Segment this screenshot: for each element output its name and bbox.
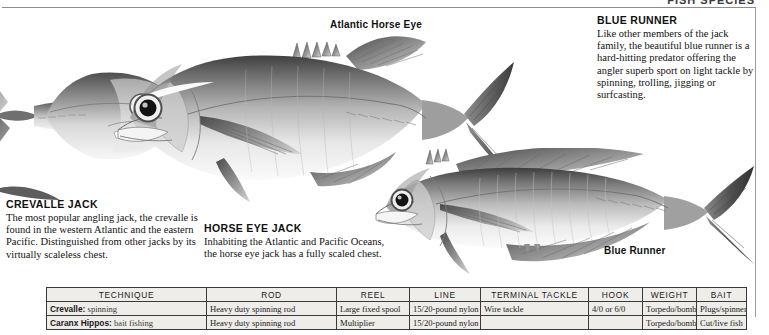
cell-line: 15/20-pound nylon bbox=[410, 302, 481, 316]
blue-runner-text-block: BLUE RUNNER Like other members of the ja… bbox=[597, 14, 757, 101]
col-reel: REEL bbox=[337, 288, 410, 302]
cell-hook bbox=[589, 316, 643, 330]
horse-eye-jack-text-block: HORSE EYE JACK Inhabiting the Atlantic a… bbox=[204, 222, 394, 260]
horse-eye-jack-body: Inhabiting the Atlantic and Pacific Ocea… bbox=[204, 236, 394, 260]
label-atlantic-horse-eye: Atlantic Horse Eye bbox=[330, 19, 422, 30]
table-header-row: TECHNIQUE ROD REEL LINE TERMINAL TACKLE … bbox=[47, 288, 747, 302]
col-bait: BAIT bbox=[697, 288, 747, 302]
table-row: Crevalle: spinning Heavy duty spinning r… bbox=[47, 302, 747, 316]
cell-weight: Torpedo/bomb bbox=[643, 316, 697, 330]
cell-technique: Crevalle: spinning bbox=[47, 302, 207, 316]
col-terminal-tackle: TERMINAL TACKLE bbox=[481, 288, 589, 302]
label-blue-runner: Blue Runner bbox=[604, 245, 666, 256]
blue-runner-heading: BLUE RUNNER bbox=[597, 14, 757, 26]
species-name: Caranx Hippos: bbox=[50, 318, 112, 328]
technique-value: bait fishing bbox=[114, 318, 153, 328]
cell-terminal-tackle: Wire tackle bbox=[481, 302, 589, 316]
blue-runner-illustration bbox=[356, 148, 756, 278]
table-row: Caranx Hippos: bait fishing Heavy duty s… bbox=[47, 316, 747, 330]
top-rule bbox=[2, 7, 755, 8]
horse-eye-jack-heading: HORSE EYE JACK bbox=[204, 222, 394, 234]
cell-technique: Caranx Hippos: bait fishing bbox=[47, 316, 207, 330]
page-canvas: FISH SPECIES bbox=[0, 0, 769, 335]
cell-bait: Cut/live fish bbox=[697, 316, 747, 330]
cell-hook: 4/0 or 6/0 bbox=[589, 302, 643, 316]
crevalle-jack-text-block: CREVALLE JACK The most popular angling j… bbox=[6, 198, 206, 261]
cell-line: 15/20-pound nylon bbox=[410, 316, 481, 330]
col-rod: ROD bbox=[207, 288, 337, 302]
cell-rod: Heavy duty spinning rod bbox=[207, 316, 337, 330]
col-hook: HOOK bbox=[589, 288, 643, 302]
blue-runner-body: Like other members of the jack family, t… bbox=[597, 28, 757, 101]
crevalle-jack-body: The most popular angling jack, the creva… bbox=[6, 212, 206, 261]
species-name: Crevalle: bbox=[50, 304, 85, 314]
cell-terminal-tackle bbox=[481, 316, 589, 330]
crevalle-jack-heading: CREVALLE JACK bbox=[6, 198, 206, 210]
cell-reel: Multiplier bbox=[337, 316, 410, 330]
cell-bait: Plugs/spinners bbox=[697, 302, 747, 316]
cell-rod: Heavy duty spinning rod bbox=[207, 302, 337, 316]
running-head: FISH SPECIES bbox=[0, 0, 769, 6]
tackle-spec-table: TECHNIQUE ROD REEL LINE TERMINAL TACKLE … bbox=[46, 287, 747, 330]
col-weight: WEIGHT bbox=[643, 288, 697, 302]
col-line: LINE bbox=[410, 288, 481, 302]
cell-reel: Large fixed spool bbox=[337, 302, 410, 316]
technique-value: spinning bbox=[88, 304, 118, 314]
col-technique: TECHNIQUE bbox=[47, 288, 207, 302]
cell-weight: Torpedo/bomb bbox=[643, 302, 697, 316]
tackle-spec-table-wrap: TECHNIQUE ROD REEL LINE TERMINAL TACKLE … bbox=[46, 287, 746, 330]
